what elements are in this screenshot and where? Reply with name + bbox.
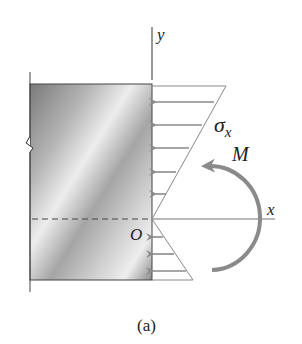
stress-label: σx	[214, 112, 232, 140]
compression-stress-triangle	[152, 86, 226, 219]
y-axis-label: y	[155, 25, 165, 44]
compression-arrows	[156, 102, 214, 194]
tension-arrows	[153, 237, 186, 271]
x-axis-label: x	[266, 200, 275, 219]
figure-caption: (a)	[137, 316, 156, 335]
moment-arrow-arc	[208, 166, 260, 270]
origin-label: O	[130, 225, 142, 244]
bending-stress-diagram: y x O σx M (a)	[0, 0, 302, 344]
moment-label: M	[231, 143, 250, 165]
beam-cross-section	[24, 72, 152, 292]
